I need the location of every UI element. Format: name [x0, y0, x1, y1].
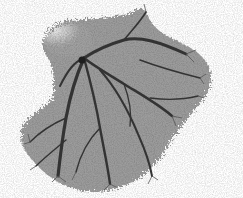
vascular-cast-image: Branching tree-like vessel cast specimen: [0, 0, 243, 198]
vessel-tree-illustration: [0, 0, 243, 198]
vessel-root: [79, 57, 86, 64]
